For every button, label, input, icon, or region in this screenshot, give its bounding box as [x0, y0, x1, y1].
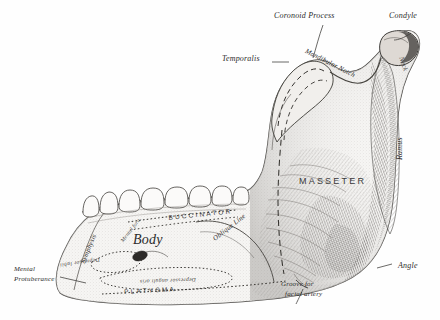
- label-groove-line1: Groove for: [281, 281, 314, 289]
- label-angle: Angle: [398, 262, 418, 271]
- label-temporalis: Temporalis: [222, 55, 260, 64]
- label-depressor-anguli-oris: Depressor anguli oris: [139, 276, 196, 284]
- anatomical-figure-mandible: Coronoid Process Condyle Temporalis Mand…: [0, 0, 440, 320]
- label-mental-protuberance-line1: Mental: [14, 266, 35, 274]
- label-groove-line2: facial artery: [285, 291, 322, 299]
- label-mental-protuberance-line2: Protuberance: [14, 276, 55, 284]
- label-condyle: Condyle: [389, 12, 417, 21]
- label-coronoid-process: Coronoid Process: [274, 12, 335, 21]
- label-ramus: Ramus: [396, 137, 405, 160]
- label-masseter: MASSETER: [299, 177, 366, 187]
- mandible-illustration: [0, 0, 440, 320]
- leader-angle: [377, 264, 392, 268]
- label-body: Body: [133, 232, 163, 247]
